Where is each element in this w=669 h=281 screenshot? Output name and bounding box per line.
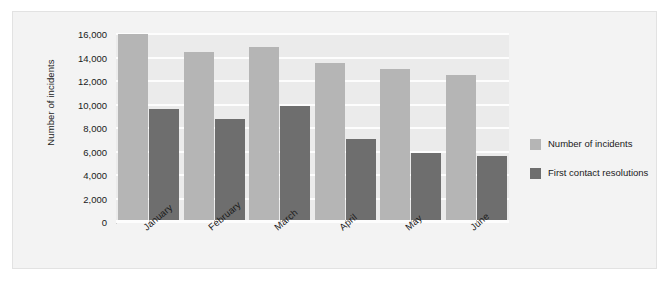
x-axis-baseline [116, 220, 509, 222]
y-axis-tick-labels: 16,00014,00012,00010,0008,0006,0004,0002… [57, 34, 111, 222]
bar-group [380, 34, 441, 222]
bar-group [184, 34, 245, 222]
legend-label: Number of incidents [548, 138, 632, 150]
legend-swatch [530, 139, 541, 150]
bar [280, 106, 310, 222]
y-axis-tick-label: 0 [102, 217, 107, 228]
bar-series-container [116, 34, 509, 222]
legend-item: Number of incidents [530, 138, 660, 150]
legend-label: First contact resolutions [548, 167, 648, 179]
y-axis-tick-label: 16,000 [78, 29, 107, 40]
legend-item: First contact resolutions [530, 167, 660, 179]
bar [380, 69, 410, 222]
plot-area [116, 34, 509, 222]
chart-panel: Number of incidents 16,00014,00012,00010… [12, 11, 657, 269]
bar-group [249, 34, 310, 222]
bar-group [315, 34, 376, 222]
bar [315, 63, 345, 222]
x-axis-tick-labels: JanuaryFebruaryMarchAprilMayJune [116, 224, 509, 274]
y-axis-tick-label: 10,000 [78, 99, 107, 110]
legend-swatch [530, 168, 541, 179]
bar-group [118, 34, 179, 222]
y-axis-tick-label: 8,000 [83, 123, 107, 134]
bar [346, 139, 376, 222]
bar [249, 47, 279, 222]
chart-legend: Number of incidentsFirst contact resolut… [530, 138, 660, 196]
y-axis-tick-label: 4,000 [83, 170, 107, 181]
bar [118, 34, 148, 222]
y-axis-tick-label: 14,000 [78, 52, 107, 63]
bar-group [446, 34, 507, 222]
bar [184, 52, 214, 222]
y-axis-title: Number of incidents [45, 33, 56, 173]
y-axis-tick-label: 6,000 [83, 146, 107, 157]
y-axis-tick-label: 12,000 [78, 76, 107, 87]
y-axis-tick-label: 2,000 [83, 193, 107, 204]
bar [446, 75, 476, 222]
